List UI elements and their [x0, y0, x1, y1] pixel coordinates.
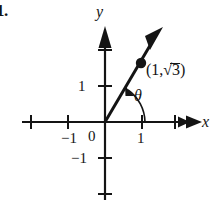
radical-overbar — [170, 63, 180, 64]
coordinate-plane-figure: 1. y x −1 0 1 1 −1 θ (1,√3) — [0, 0, 218, 204]
axes-and-vector-graphic — [0, 0, 218, 204]
terminal-side-ray — [105, 37, 155, 122]
y-axis-arrowhead — [99, 26, 112, 48]
theta-angle-label: θ — [134, 88, 142, 104]
radical-group: √3 — [163, 62, 180, 78]
y-tick-label-one: 1 — [78, 79, 86, 94]
y-axis-label: y — [96, 4, 103, 20]
point-label-close: ) — [180, 61, 185, 78]
y-tick-label-negative-one: −1 — [71, 151, 87, 166]
origin-label: 0 — [88, 129, 96, 144]
x-tick-label-one: 1 — [137, 131, 145, 146]
exercise-number: 1. — [0, 2, 8, 19]
plotted-point — [136, 58, 146, 68]
point-coordinate-label: (1,√3) — [146, 62, 185, 78]
angle-arc-arrowhead — [125, 86, 134, 96]
point-label-open: (1, — [146, 61, 163, 78]
x-tick-label-negative-one: −1 — [61, 131, 77, 146]
x-axis-label: x — [202, 114, 209, 130]
